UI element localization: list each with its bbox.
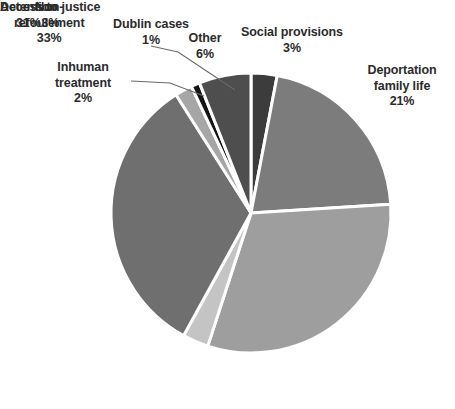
pie-label-other: Other 6% [182,31,228,62]
pie-label-deportation-name-line2: family life [351,79,453,95]
pie-label-social-provisions-percent: 3% [225,41,359,57]
pie-slice-group [111,73,391,353]
pie-label-non-refoulement-percent: 33% [14,31,84,47]
pie-label-social-provisions-name: Social provisions [225,25,359,41]
pie-label-detention: Detention 31% [0,0,57,31]
pie-label-deportation-family-life: Deportation family life 21% [351,63,453,110]
pie-label-detention-name: Detention [0,0,57,16]
pie-label-deportation-percent: 21% [351,94,453,110]
pie-chart: Dublin cases 1% Other 6% Social provisio… [0,0,455,409]
pie-label-deportation-name-line1: Deportation [351,63,453,79]
pie-label-other-name: Other [182,31,228,47]
pie-label-inhuman-treatment-percent: 2% [28,91,138,107]
pie-label-other-percent: 6% [182,47,228,63]
pie-label-inhuman-treatment: Inhuman treatment 2% [28,60,138,107]
pie-label-detention-percent: 31% [0,16,57,32]
pie-label-social-provisions: Social provisions 3% [225,25,359,56]
pie-label-inhuman-treatment-name-line1: Inhuman [28,60,138,76]
pie-label-inhuman-treatment-name-line2: treatment [28,76,138,92]
